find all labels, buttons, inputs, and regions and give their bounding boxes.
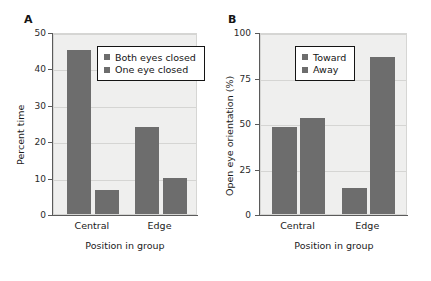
panel-b: B 0255075100 CentralEdge Open eye orient… <box>215 0 431 281</box>
legend-label: One eye closed <box>115 64 188 76</box>
legend-item: Both eyes closed <box>104 52 196 64</box>
legend-label: Toward <box>313 52 346 64</box>
y-tick-mark <box>48 33 52 34</box>
panel-b-legend: Toward Away <box>295 46 355 81</box>
panel-b-y-axis-line <box>259 33 260 216</box>
bar-central-toward <box>272 127 297 214</box>
figure-container: A 01020304050 CentralEdge Percent time P… <box>0 0 431 281</box>
panel-a-y-axis-line <box>52 33 53 216</box>
y-tick-label: 50 <box>18 28 46 38</box>
y-tick-label: 40 <box>18 64 46 74</box>
y-tick-mark <box>48 69 52 70</box>
panel-a-x-axis-line <box>52 215 198 216</box>
y-tick-label: 100 <box>221 28 251 38</box>
bar-edge-one-eye-closed <box>163 178 187 214</box>
bar-edge-toward <box>342 188 367 214</box>
legend-item: One eye closed <box>104 64 196 76</box>
legend-swatch-icon <box>104 54 110 60</box>
bar-edge-both-eyes-closed <box>135 127 159 214</box>
legend-swatch-icon <box>104 67 110 73</box>
panel-a-letter: A <box>24 13 33 26</box>
legend-swatch-icon <box>302 54 308 60</box>
legend-item: Away <box>302 64 346 76</box>
panel-a: A 01020304050 CentralEdge Percent time P… <box>0 0 215 281</box>
x-tick-label: Central <box>280 220 315 231</box>
y-tick-label: 10 <box>18 174 46 184</box>
y-tick-mark <box>48 215 52 216</box>
panel-a-y-axis-label: Percent time <box>15 105 26 165</box>
y-tick-mark <box>48 142 52 143</box>
panel-b-y-axis-label: Open eye orientation (%) <box>224 76 235 196</box>
y-tick-mark <box>255 33 259 34</box>
bar-edge-away <box>370 57 395 214</box>
panel-b-x-axis-line <box>259 215 408 216</box>
y-tick-mark <box>255 124 259 125</box>
y-tick-label: 0 <box>18 210 46 220</box>
x-tick-label: Edge <box>148 220 172 231</box>
y-tick-mark <box>255 79 259 80</box>
bar-central-one-eye-closed <box>95 190 119 214</box>
x-tick-label: Edge <box>355 220 379 231</box>
panel-a-x-axis-label: Position in group <box>85 240 164 251</box>
x-tick-label: Central <box>75 220 110 231</box>
legend-label: Both eyes closed <box>115 52 196 64</box>
legend-item: Toward <box>302 52 346 64</box>
panel-a-legend: Both eyes closed One eye closed <box>97 46 205 81</box>
bar-central-away <box>300 118 325 214</box>
y-tick-mark <box>48 179 52 180</box>
panel-b-letter: B <box>228 13 236 26</box>
y-tick-mark <box>255 215 259 216</box>
y-tick-label: 0 <box>221 210 251 220</box>
panel-b-x-axis-label: Position in group <box>294 240 373 251</box>
y-tick-mark <box>48 106 52 107</box>
legend-label: Away <box>313 64 338 76</box>
legend-swatch-icon <box>302 67 308 73</box>
y-tick-mark <box>255 170 259 171</box>
bar-central-both-eyes-closed <box>67 50 91 214</box>
